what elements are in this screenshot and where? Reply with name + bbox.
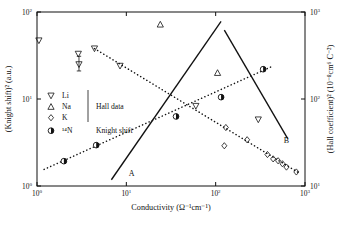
x-tick-label: 100	[32, 189, 42, 198]
legend-label-K: K	[62, 113, 68, 122]
data-point-K	[265, 151, 270, 157]
y-tick-label: 102	[22, 8, 32, 17]
x-tick-label: 102	[211, 189, 221, 198]
data-point-Na	[157, 21, 163, 27]
legend-marker-Na	[48, 104, 54, 110]
legend-marker-¹⁴N	[48, 128, 54, 134]
legend-marker-K	[48, 115, 53, 121]
fit-line-knight-trend	[44, 66, 273, 170]
data-point-K	[280, 161, 285, 167]
legend-label-Li: Li	[62, 91, 69, 100]
legend-label-Na: Na	[62, 102, 71, 111]
fit-line-B	[224, 30, 287, 139]
legend-marker-Li	[48, 93, 54, 99]
data-point-¹⁴N	[93, 142, 99, 148]
legend-group-label-knight-shift: Knight shift	[96, 126, 133, 135]
x-tick-label: 101	[121, 189, 131, 198]
y-axis-title: (Knight shift)² (a.u.)	[4, 65, 13, 132]
curve-label-A: A	[129, 169, 135, 178]
y-tick-label: 101	[22, 95, 32, 104]
y2-axis-title: (Hall coefficient)² (10⁻⁸cm⁶ C⁻²)	[326, 45, 335, 154]
curve-label-B: B	[284, 136, 289, 145]
data-point-Na	[214, 70, 220, 76]
chart-figure: 100101102103100101102101102103Conductivi…	[0, 0, 343, 229]
legend-label-14N: ¹⁴N	[62, 126, 73, 135]
data-point-¹⁴N	[61, 158, 67, 164]
x-tick-label: 103	[300, 189, 310, 198]
data-point-¹⁴N	[260, 66, 266, 72]
fit-line-hall-trend	[94, 49, 299, 174]
fit-line-A	[111, 21, 221, 179]
data-point-Li	[255, 117, 261, 123]
x-axis-title: Conductivity (Ω⁻¹cm⁻¹)	[131, 203, 211, 212]
y2-tick-label: 102	[310, 95, 320, 104]
y2-tick-label: 103	[310, 8, 320, 17]
legend-group-label-hall: Hall data	[96, 102, 124, 111]
y2-tick-label: 101	[310, 182, 320, 191]
data-point-¹⁴N	[218, 94, 224, 100]
data-point-¹⁴N	[173, 114, 179, 120]
data-point-K	[222, 143, 227, 149]
log-log-scatter-plot: 100101102103100101102101102103Conductivi…	[0, 0, 343, 229]
y-tick-label: 100	[22, 182, 32, 191]
